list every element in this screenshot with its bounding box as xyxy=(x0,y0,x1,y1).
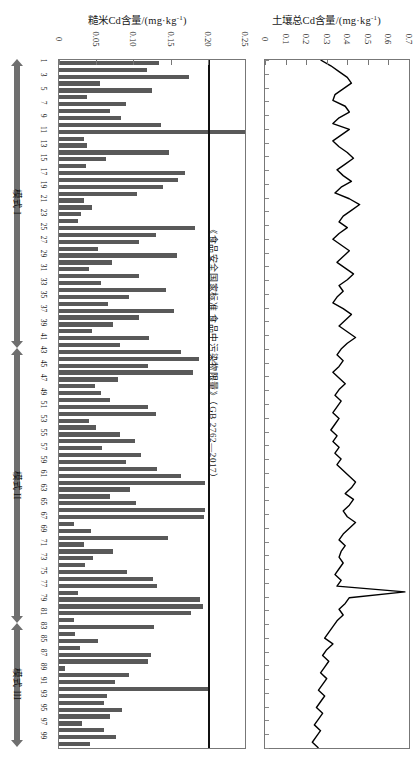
axis-minor-tick xyxy=(265,597,269,598)
bar xyxy=(59,577,153,581)
axis-minor-tick xyxy=(265,74,269,75)
bar xyxy=(59,687,208,691)
soil-cd-line-series xyxy=(265,60,409,748)
axis-minor-tick xyxy=(265,500,269,501)
bar xyxy=(59,357,199,361)
mode-indicator-column: 模式 I模式 II模式 III xyxy=(8,59,30,749)
bar xyxy=(59,646,80,650)
bar xyxy=(59,412,156,416)
axis-minor-tick xyxy=(265,555,269,556)
bar xyxy=(59,728,104,732)
bar xyxy=(59,61,159,65)
bar xyxy=(59,315,139,319)
bar xyxy=(59,143,87,147)
right-axis-tick-labels: 00.10.20.30.40.50.60.7 xyxy=(264,30,410,56)
axis-tick-label: 0.6 xyxy=(383,27,393,51)
axis-tick-label: 0.15 xyxy=(166,27,176,51)
bar xyxy=(59,735,116,739)
axis-tick-mark xyxy=(245,60,246,65)
bar xyxy=(59,570,127,574)
bar xyxy=(59,666,65,670)
bar xyxy=(59,233,156,237)
axis-minor-tick xyxy=(265,321,269,322)
axis-minor-tick xyxy=(265,266,269,267)
bar xyxy=(59,639,98,643)
bar xyxy=(59,522,74,526)
bar xyxy=(59,370,193,374)
right-chart-title: 土壤总Cd含量/(mg·kg-1) xyxy=(272,12,381,27)
bar xyxy=(59,481,205,485)
left-chart-title-tail: ) xyxy=(183,15,187,26)
bar xyxy=(59,680,115,684)
bar xyxy=(59,171,185,175)
mode-label: 模式 II xyxy=(11,463,25,507)
bar xyxy=(59,137,84,141)
bar xyxy=(59,439,135,443)
figure-root: 糙米Cd含量/(mg·kg-1) 土壤总Cd含量/(mg·kg-1) 00.05… xyxy=(0,0,418,762)
axis-tick-mark xyxy=(409,60,410,65)
axis-minor-tick xyxy=(265,418,269,419)
bar xyxy=(59,260,112,264)
bar xyxy=(59,247,98,251)
bar xyxy=(59,611,191,615)
axis-minor-tick xyxy=(265,693,269,694)
bar xyxy=(59,377,118,381)
axis-tick-mark xyxy=(171,60,172,65)
axis-minor-tick xyxy=(265,445,269,446)
axis-minor-tick xyxy=(265,404,269,405)
left-axis-tick-labels: 00.050.100.150.200.25 xyxy=(58,30,246,56)
bar xyxy=(59,309,174,313)
bar xyxy=(59,708,122,712)
left-chart-title-text: 糙米Cd含量/(mg·kg xyxy=(88,15,177,26)
bar xyxy=(59,742,90,746)
bar xyxy=(59,322,113,326)
axis-tick-label: 0.5 xyxy=(363,27,373,51)
axis-tick-label: 0 xyxy=(54,27,64,51)
axis-minor-tick xyxy=(265,583,269,584)
axis-minor-tick xyxy=(265,748,269,749)
axis-tick-label: 0.1 xyxy=(281,27,291,51)
axis-tick-label: 0.7 xyxy=(404,27,414,51)
mode-label: 模式 I xyxy=(11,180,25,224)
bar xyxy=(59,274,139,278)
axis-tick-mark xyxy=(133,60,134,65)
axis-minor-tick xyxy=(265,652,269,653)
bar xyxy=(59,453,141,457)
bar xyxy=(59,130,245,134)
bar xyxy=(59,529,91,533)
bar xyxy=(59,267,89,271)
food-safety-standard-label: 《食品安全国家标准 食品中污染物限量》（GB 2762—2017） xyxy=(207,225,220,483)
axis-minor-tick xyxy=(265,624,269,625)
bar xyxy=(59,123,161,127)
bar xyxy=(59,508,205,512)
left-chart-title: 糙米Cd含量/(mg·kg-1) xyxy=(88,12,187,27)
axis-minor-tick xyxy=(265,514,269,515)
axis-minor-tick xyxy=(265,115,269,116)
axis-tick-label: 0.20 xyxy=(203,27,213,51)
bar xyxy=(59,336,149,340)
bar xyxy=(59,205,92,209)
bar xyxy=(59,618,74,622)
bar xyxy=(59,494,110,498)
axis-tick-label: 0.05 xyxy=(91,27,101,51)
axis-minor-tick xyxy=(265,487,269,488)
axis-minor-tick xyxy=(265,349,269,350)
bar xyxy=(59,219,78,223)
bar xyxy=(59,281,101,285)
axis-minor-tick xyxy=(265,308,269,309)
bar xyxy=(59,721,82,725)
axis-tick-mark xyxy=(208,60,209,65)
axis-minor-tick xyxy=(265,170,269,171)
axis-minor-tick xyxy=(265,60,269,61)
bar xyxy=(59,75,189,79)
bar xyxy=(59,549,113,553)
bar xyxy=(59,109,110,113)
axis-minor-tick xyxy=(265,225,269,226)
bar xyxy=(59,460,126,464)
bar xyxy=(59,102,126,106)
sample-index-labels: 1357911131517192123252729313335373941434… xyxy=(30,59,56,749)
axis-minor-tick xyxy=(265,280,269,281)
axis-minor-tick xyxy=(265,376,269,377)
bar xyxy=(59,556,93,560)
bar xyxy=(59,419,89,423)
